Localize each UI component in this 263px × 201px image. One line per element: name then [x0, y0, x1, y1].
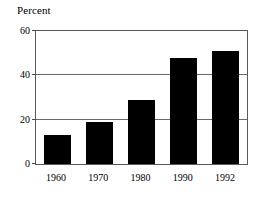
x-axis-label-1970: 1970	[88, 172, 108, 184]
y-tick-20	[32, 119, 36, 120]
x-axis: 19601970198019901992	[35, 172, 248, 188]
bar-chart: Percent 0204060 19601970198019901992	[0, 0, 263, 201]
bar-1990	[170, 58, 197, 164]
bar-1960	[44, 135, 71, 164]
y-tick-40	[32, 74, 36, 75]
y-axis-label: 20	[20, 115, 30, 125]
plot-area: 0204060	[35, 30, 248, 165]
y-axis-label: 0	[25, 159, 30, 169]
y-tick-0	[32, 163, 36, 164]
x-axis-label-1992: 1992	[215, 172, 235, 184]
y-axis-label: 60	[20, 26, 30, 36]
x-axis-label-1960: 1960	[46, 172, 66, 184]
x-axis-label-1980: 1980	[131, 172, 151, 184]
y-axis-label: 40	[20, 70, 30, 80]
y-tick-60	[32, 30, 36, 31]
chart-title: Percent	[17, 4, 51, 17]
bar-1970	[86, 122, 113, 164]
bar-1980	[128, 100, 155, 164]
x-axis-label-1990: 1990	[173, 172, 193, 184]
bar-1992	[212, 51, 239, 164]
